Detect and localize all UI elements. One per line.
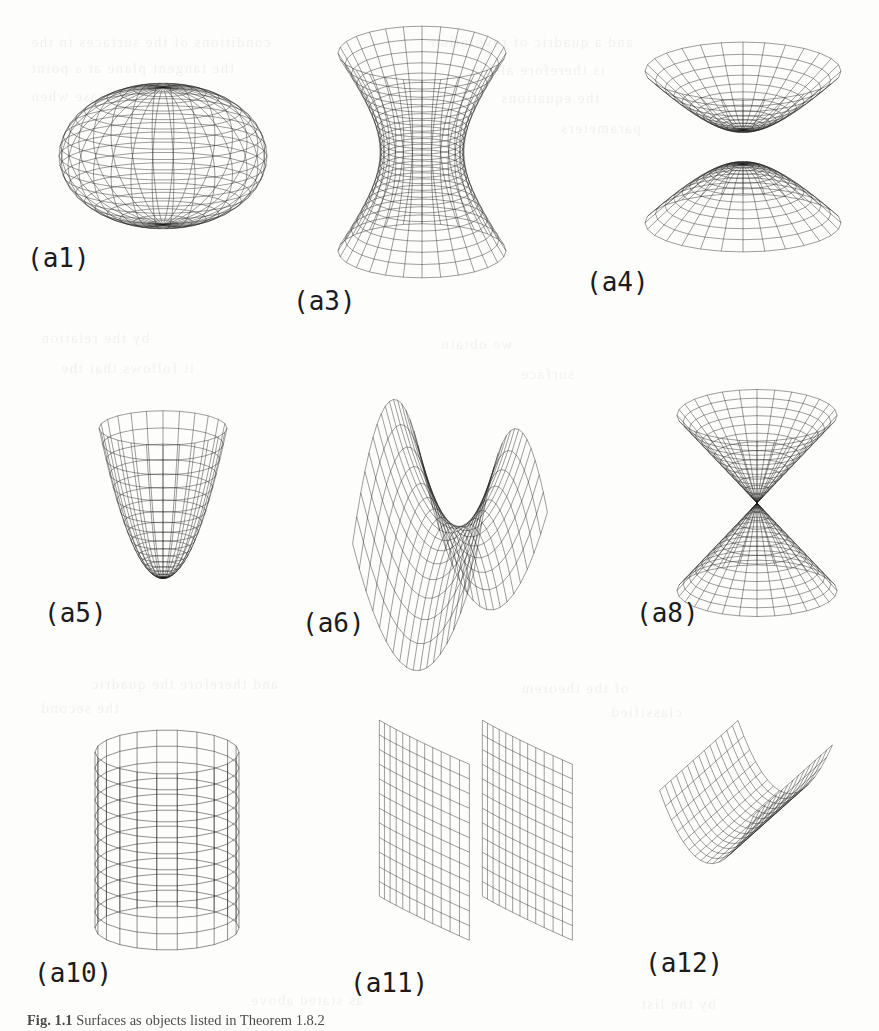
- panel-a11-hyperbolic-cylinder: [355, 700, 585, 950]
- parabolic-cylinder-wireframe: [650, 700, 865, 940]
- elliptic-paraboloid-wireframe: [88, 410, 238, 592]
- figure-page: conditions of the surfaces in theand a q…: [0, 0, 879, 1031]
- hyperbolic-paraboloid-wireframe: [318, 420, 588, 605]
- caption-prefix: Fig. 1.1: [27, 1012, 73, 1028]
- panel-a10-elliptic-cylinder: [85, 740, 250, 940]
- panel-label-a1: (a1): [27, 243, 90, 273]
- elliptic-cylinder-wireframe: [85, 740, 250, 940]
- double-cone-wireframe: [670, 408, 845, 598]
- panel-a4-hyperboloid-two-sheets: [636, 32, 851, 260]
- ellipsoid-wireframe: [48, 68, 278, 243]
- panel-label-a10: (a10): [34, 958, 112, 988]
- panel-a3-hyperboloid-one-sheet: [315, 30, 530, 275]
- caption-text: Surfaces as objects listed in Theorem 1.…: [76, 1012, 325, 1028]
- panel-label-a5: (a5): [44, 598, 107, 628]
- panel-label-a11: (a11): [350, 968, 428, 998]
- panel-label-a6: (a6): [302, 608, 365, 638]
- panel-label-a4: (a4): [586, 267, 649, 297]
- panel-a12-parabolic-cylinder: [650, 700, 865, 940]
- panel-a8-double-cone: [670, 408, 845, 598]
- hyperbolic-cylinder-wireframe: [355, 700, 585, 950]
- panel-label-a3: (a3): [293, 286, 356, 316]
- hyperboloid-one-sheet-wireframe: [315, 30, 530, 275]
- panel-label-a12: (a12): [645, 948, 723, 978]
- panel-a5-elliptic-paraboloid: [88, 410, 238, 592]
- panel-label-a8: (a8): [636, 598, 699, 628]
- hyperboloid-two-sheets-wireframe: [636, 32, 851, 260]
- panel-a6-hyperbolic-paraboloid: [318, 420, 588, 605]
- panel-a1-ellipsoid: [48, 68, 278, 243]
- figure-caption: Fig. 1.1 Surfaces as objects listed in T…: [27, 1012, 867, 1031]
